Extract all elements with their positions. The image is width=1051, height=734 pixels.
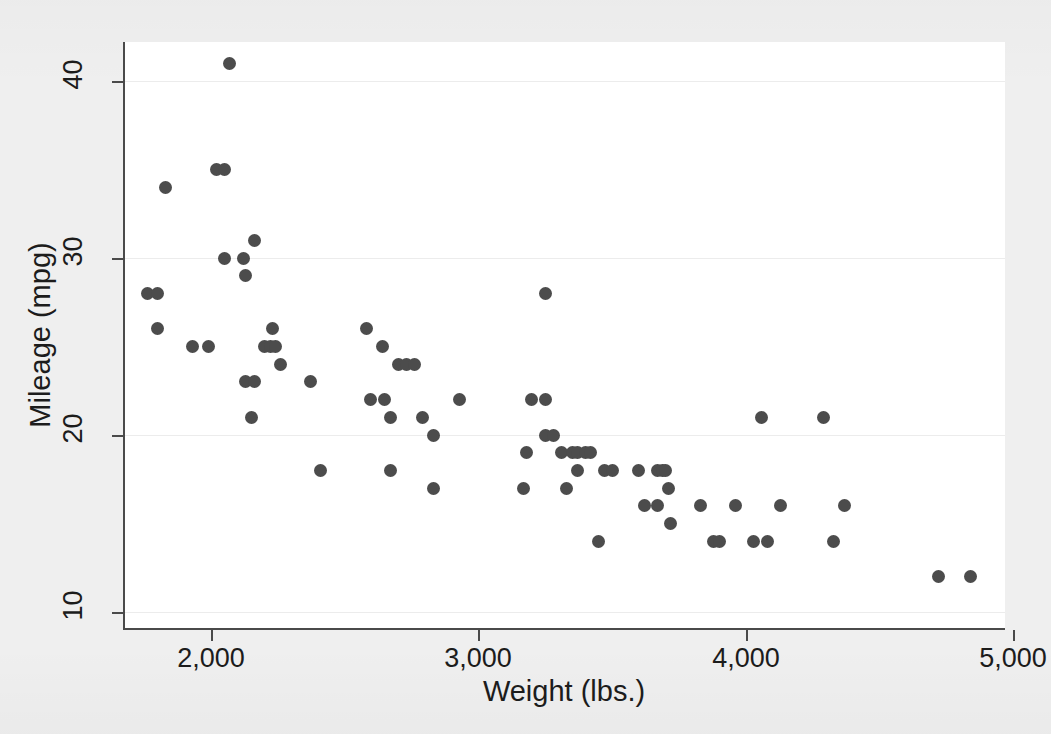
data-point: [384, 411, 397, 424]
data-point: [817, 411, 830, 424]
plot-area: [123, 42, 1005, 628]
data-point: [932, 570, 945, 583]
data-point: [560, 482, 573, 495]
data-point: [248, 234, 261, 247]
y-tick-20: [112, 435, 124, 437]
x-tick-5,000: [1013, 630, 1015, 641]
y-tick-10: [112, 612, 124, 614]
data-point: [517, 482, 530, 495]
data-point: [547, 429, 560, 442]
data-point: [159, 181, 172, 194]
data-point: [539, 393, 552, 406]
gridline-y-30: [123, 258, 1005, 259]
data-point: [539, 287, 552, 300]
data-point: [186, 340, 199, 353]
scatter-plot-figure: 10203040 2,0003,0004,0005,000 Mileage (m…: [0, 0, 1051, 734]
data-point: [571, 464, 584, 477]
gridline-y-10: [123, 612, 1005, 613]
x-axis-line: [123, 628, 1005, 630]
x-tick-4,000: [746, 630, 748, 641]
data-point: [964, 570, 977, 583]
data-point: [269, 340, 282, 353]
y-axis-title-wrapper: Mileage (mpg): [10, 42, 70, 628]
data-point: [274, 358, 287, 371]
data-point: [659, 464, 672, 477]
y-tick-30: [112, 258, 124, 260]
data-point: [218, 252, 231, 265]
data-point: [761, 535, 774, 548]
data-point: [606, 464, 619, 477]
y-axis-title: Mileage (mpg): [24, 242, 57, 427]
data-point: [304, 375, 317, 388]
y-tick-40: [112, 81, 124, 83]
x-tick-label-3,000: 3,000: [418, 643, 538, 674]
data-point: [729, 499, 742, 512]
data-point: [427, 482, 440, 495]
y-axis-line: [123, 42, 125, 629]
data-point: [427, 429, 440, 442]
x-tick-3,000: [478, 630, 480, 641]
x-tick-label-4,000: 4,000: [686, 643, 806, 674]
data-point: [662, 482, 675, 495]
x-tick-label-2,000: 2,000: [151, 643, 271, 674]
data-point: [364, 393, 377, 406]
x-axis-title: Weight (lbs.): [123, 675, 1005, 708]
data-point: [218, 163, 231, 176]
data-point: [416, 411, 429, 424]
data-point: [638, 499, 651, 512]
data-point: [151, 287, 164, 300]
data-point: [384, 464, 397, 477]
x-tick-label-5,000: 5,000: [953, 643, 1051, 674]
data-point: [408, 358, 421, 371]
data-point: [248, 375, 261, 388]
data-point: [713, 535, 726, 548]
data-point: [376, 340, 389, 353]
x-tick-2,000: [211, 630, 213, 641]
data-point: [360, 322, 373, 335]
gridline-y-20: [123, 435, 1005, 436]
data-point: [245, 411, 258, 424]
gridline-y-40: [123, 81, 1005, 82]
data-point: [237, 252, 250, 265]
data-point: [592, 535, 605, 548]
data-point: [202, 340, 215, 353]
